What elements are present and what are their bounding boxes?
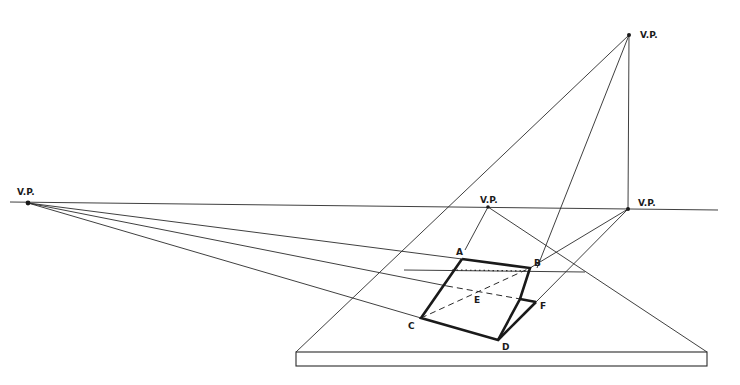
vp-right-label: V.P. (638, 198, 656, 208)
point-label-c: C (408, 321, 415, 331)
vp-right-dot (626, 207, 630, 211)
left-vp-construction-lines (28, 203, 462, 318)
point-label-b: B (534, 258, 541, 268)
center-vp-construction-lines (465, 207, 707, 352)
vp-top-dot (627, 33, 631, 37)
right-vp-construction-lines (530, 209, 628, 302)
vp-center-dot (486, 205, 490, 209)
vp-top-label: V.P. (640, 30, 658, 40)
point-label-e: E (474, 295, 480, 305)
top-vp-construction-lines (296, 35, 629, 352)
point-label-a: A (456, 247, 463, 257)
point-label-d: D (502, 342, 509, 352)
horizontal-construction-line (404, 270, 585, 272)
vp-center-label: V.P. (480, 195, 498, 205)
vp-left-dot (26, 201, 31, 206)
point-label-f: F (540, 301, 546, 311)
horizon-line (10, 202, 718, 210)
vp-left-label: V.P. (17, 187, 35, 197)
perspective-diagram: V.P. V.P. V.P. V.P. A B C D E F (0, 0, 740, 385)
base-slab (296, 352, 707, 366)
